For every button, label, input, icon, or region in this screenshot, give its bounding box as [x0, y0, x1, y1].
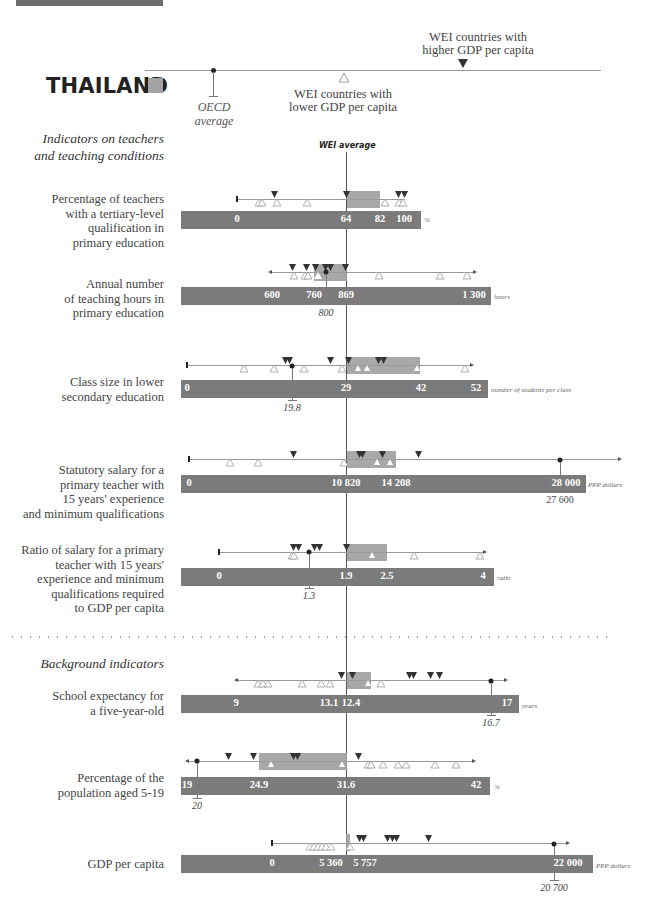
tick-label: 22 000 — [554, 857, 583, 868]
unit-label: PPP dollars — [596, 862, 630, 870]
indicator-bar — [181, 855, 593, 873]
tick-label: 5 757 — [353, 857, 377, 868]
tick-label: 0 — [269, 857, 274, 868]
oecd-leader-cap — [550, 880, 559, 881]
markers-row8 — [0, 0, 658, 921]
tick-label: 5 360 — [319, 857, 343, 868]
oecd-value: 20 700 — [540, 882, 568, 893]
